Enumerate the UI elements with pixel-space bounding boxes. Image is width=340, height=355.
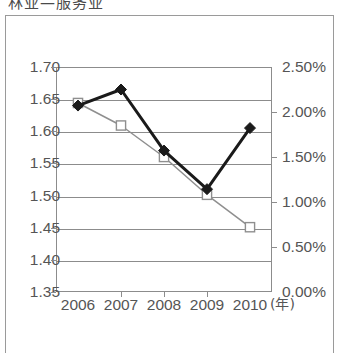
y-axis-right-tick-label: 1.50% bbox=[282, 149, 326, 165]
data-point-square bbox=[245, 223, 254, 232]
y-axis-left-tick-mark bbox=[51, 163, 56, 164]
x-axis-tick-mark bbox=[207, 292, 208, 297]
series-line-series-diamond bbox=[78, 90, 250, 190]
y-axis-left-tick-mark bbox=[51, 131, 56, 132]
y-axis-left-tick-mark bbox=[51, 228, 56, 229]
y-axis-right-tick-mark bbox=[272, 112, 277, 113]
y-axis-right-tick-label: 0.50% bbox=[282, 239, 326, 255]
y-axis-left-tick-mark bbox=[51, 99, 56, 100]
y-axis-right-tick-mark bbox=[272, 157, 277, 158]
x-axis-tick-label: 2009 bbox=[190, 297, 224, 313]
x-axis-tick-label: 2008 bbox=[147, 297, 181, 313]
x-axis-unit-label: (年) bbox=[270, 297, 295, 311]
y-axis-right-tick-label: 2.50% bbox=[282, 59, 326, 75]
y-axis-left-tick-mark bbox=[51, 67, 56, 68]
y-axis-right-tick-label: 1.00% bbox=[282, 194, 326, 210]
y-axis-right-tick-label: 2.00% bbox=[282, 104, 326, 120]
data-point-square bbox=[116, 121, 125, 130]
y-axis-right-tick-mark bbox=[272, 247, 277, 248]
x-axis-tick-label: 2007 bbox=[104, 297, 138, 313]
y-axis-left-tick-mark bbox=[51, 196, 56, 197]
x-axis-tick-label: 2006 bbox=[61, 297, 95, 313]
y-axis-left-tick-mark bbox=[51, 260, 56, 261]
y-axis-right-tick-mark bbox=[272, 202, 277, 203]
x-axis-tick-mark bbox=[121, 292, 122, 297]
x-axis-tick-label: 2010 bbox=[233, 297, 267, 313]
x-axis-tick-mark bbox=[164, 292, 165, 297]
chart-figure: 林业—服务业 1.701.651.601.551.501.451.401.352… bbox=[0, 0, 340, 355]
y-axis-left-tick-mark bbox=[51, 292, 56, 293]
